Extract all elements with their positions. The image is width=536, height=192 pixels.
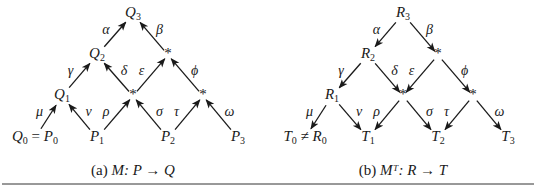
edge-arrow-a-6 <box>41 105 56 128</box>
matrix-tree-diagram: αβγδεϕμνρστωQ3Q2*Q1**Q0 = P0P1P2P3(a) M:… <box>0 0 536 192</box>
star-node: * <box>199 86 207 102</box>
node-t2: T2 <box>431 128 444 146</box>
node-q2: Q2 <box>89 45 105 63</box>
node-q3: Q3 <box>125 4 141 22</box>
node-r2: R2 <box>360 45 375 63</box>
edge-label-ε: ε <box>409 63 415 78</box>
caption-a: (a) M: P → Q <box>91 162 175 179</box>
edge-label-μ: μ <box>35 104 43 119</box>
edge-label-τ: τ <box>444 104 450 119</box>
star-node: * <box>129 86 137 102</box>
star-node: * <box>399 86 407 102</box>
caption-b: (b) Mᵀ: R → T <box>359 162 449 179</box>
edge-label-β: β <box>425 22 433 37</box>
edge-label-ρ: ρ <box>102 104 110 119</box>
node-r1: R1 <box>324 86 339 104</box>
node-q0=p0: Q0 = P0 <box>12 128 58 146</box>
edge-label-ρ: ρ <box>372 104 380 119</box>
node-q1: Q1 <box>54 86 70 104</box>
edge-label-σ: σ <box>426 104 434 119</box>
edge-label-α: α <box>102 22 110 37</box>
panel-a-tree: αβγδεϕμνρστωQ3Q2*Q1**Q0 = P0P1P2P3(a) M:… <box>12 4 245 179</box>
edge-label-δ: δ <box>121 63 128 78</box>
edge-label-σ: σ <box>156 104 164 119</box>
star-node: * <box>164 45 172 61</box>
star-node: * <box>434 45 442 61</box>
edge-label-α: α <box>373 22 381 37</box>
edge-label-γ: γ <box>338 63 344 78</box>
edge-label-ε: ε <box>139 63 145 78</box>
node-t0≠r0: T0 ≠ R0 <box>283 128 326 146</box>
edge-label-ω: ω <box>225 104 235 119</box>
edge-arrow-b-6 <box>311 105 326 128</box>
node-p1: P1 <box>89 128 104 146</box>
node-r3: R3 <box>395 4 410 22</box>
edge-label-ν: ν <box>85 104 92 119</box>
edge-label-δ: δ <box>391 63 398 78</box>
edge-label-μ: μ <box>305 104 313 119</box>
edge-label-τ: τ <box>174 104 180 119</box>
node-p3: P3 <box>230 128 245 146</box>
node-p2: P2 <box>160 128 175 146</box>
panel-b-tree: αβγδεϕμνρστωR3R2*R1**T0 ≠ R0T1T2T3(b) Mᵀ… <box>283 4 514 179</box>
edge-label-γ: γ <box>68 63 74 78</box>
edge-label-ω: ω <box>495 104 505 119</box>
edge-label-β: β <box>155 22 163 37</box>
edge-label-ϕ: ϕ <box>191 63 198 78</box>
star-node: * <box>469 86 477 102</box>
node-t1: T1 <box>361 128 374 146</box>
edge-label-ϕ: ϕ <box>461 63 468 78</box>
edge-label-ν: ν <box>356 104 363 119</box>
node-t3: T3 <box>501 128 514 146</box>
